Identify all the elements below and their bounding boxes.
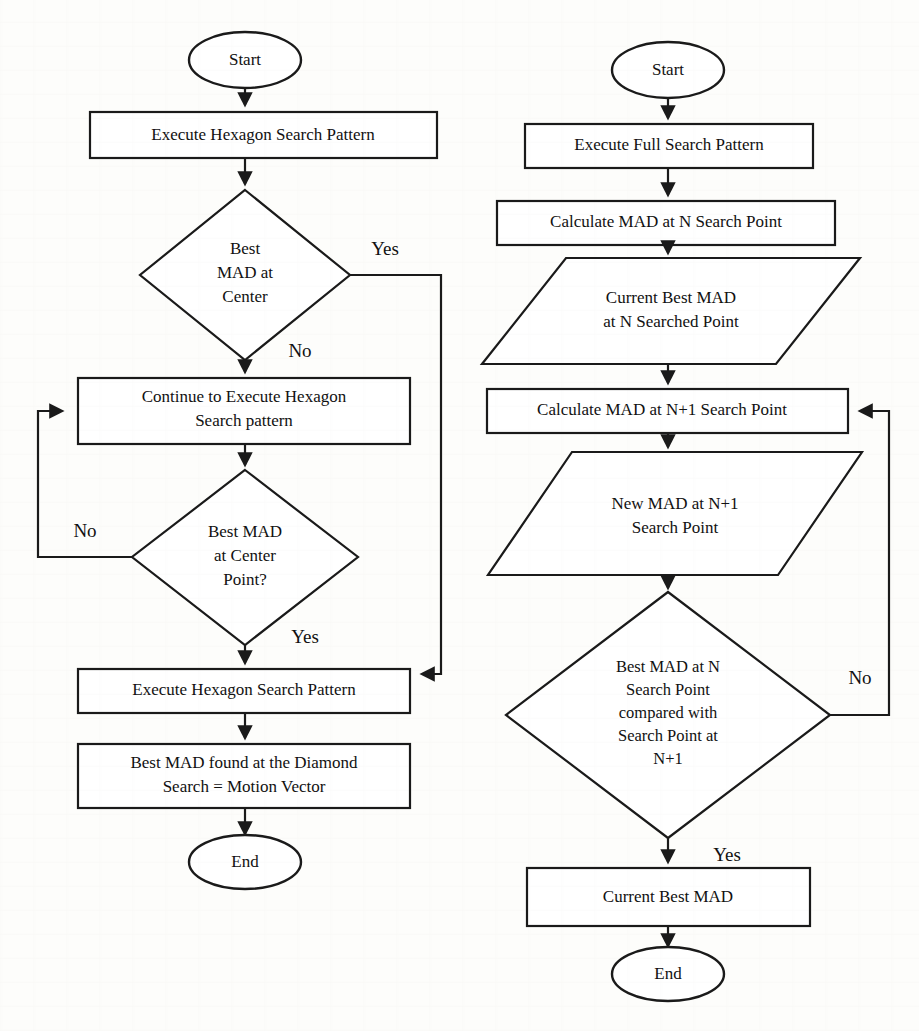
- right-calc-mad-n1-label: Calculate MAD at N+1 Search Point: [537, 400, 787, 419]
- left-edge-label-d2-no: No: [73, 520, 96, 541]
- right-edge-label-yes: Yes: [713, 844, 741, 865]
- left-exec-hexagon-2-label: Execute Hexagon Search Pattern: [132, 680, 356, 699]
- right-decision-line2: Search Point: [626, 680, 710, 699]
- left-decision-1-line3: Center: [222, 287, 268, 306]
- left-decision-2-line2: at Center: [214, 546, 276, 565]
- left-edge-label-d1-yes: Yes: [371, 238, 399, 259]
- right-current-best-mad-n-line1: Current Best MAD: [606, 288, 736, 307]
- left-best-mad-found-line1: Best MAD found at the Diamond: [130, 753, 358, 772]
- left-edge-label-d1-no: No: [288, 340, 311, 361]
- right-decision-line5: N+1: [653, 749, 682, 768]
- left-exec-hexagon-1-label: Execute Hexagon Search Pattern: [151, 125, 375, 144]
- left-end-label: End: [231, 852, 259, 871]
- left-edge-label-d2-yes: Yes: [291, 626, 319, 647]
- left-decision-2-line1: Best MAD: [208, 522, 282, 541]
- right-decision-line1: Best MAD at N: [616, 657, 720, 676]
- flowchart-canvas: Start Execute Hexagon Search Pattern Bes…: [0, 0, 919, 1031]
- left-continue-hexagon-line1: Continue to Execute Hexagon: [142, 387, 347, 406]
- left-edge-d1-yes: [350, 275, 441, 674]
- left-continue-hexagon-line2: Search pattern: [195, 411, 293, 430]
- right-new-mad-n1-parallelogram[interactable]: [488, 452, 862, 575]
- left-start-label: Start: [229, 50, 261, 69]
- right-decision-line3: compared with: [619, 703, 718, 722]
- right-current-best-mad-n-line2: at N Searched Point: [603, 312, 739, 331]
- right-decision-line4: Search Point at: [618, 726, 718, 745]
- right-edge-label-no: No: [848, 667, 871, 688]
- right-current-best-mad-label: Current Best MAD: [603, 887, 733, 906]
- left-decision-1-line1: Best: [230, 239, 261, 258]
- left-best-mad-found-line2: Search = Motion Vector: [163, 777, 326, 796]
- right-start-label: Start: [652, 60, 684, 79]
- right-end-label: End: [654, 964, 682, 983]
- left-decision-2-line3: Point?: [223, 570, 266, 589]
- right-calc-mad-n-label: Calculate MAD at N Search Point: [550, 212, 782, 231]
- right-new-mad-n1-line2: Search Point: [632, 518, 719, 537]
- right-exec-full-search-label: Execute Full Search Pattern: [574, 135, 764, 154]
- left-decision-1-line2: MAD at: [217, 263, 273, 282]
- flowchart-page: Start Execute Hexagon Search Pattern Bes…: [0, 0, 919, 1031]
- right-new-mad-n1-line1: New MAD at N+1: [611, 494, 738, 513]
